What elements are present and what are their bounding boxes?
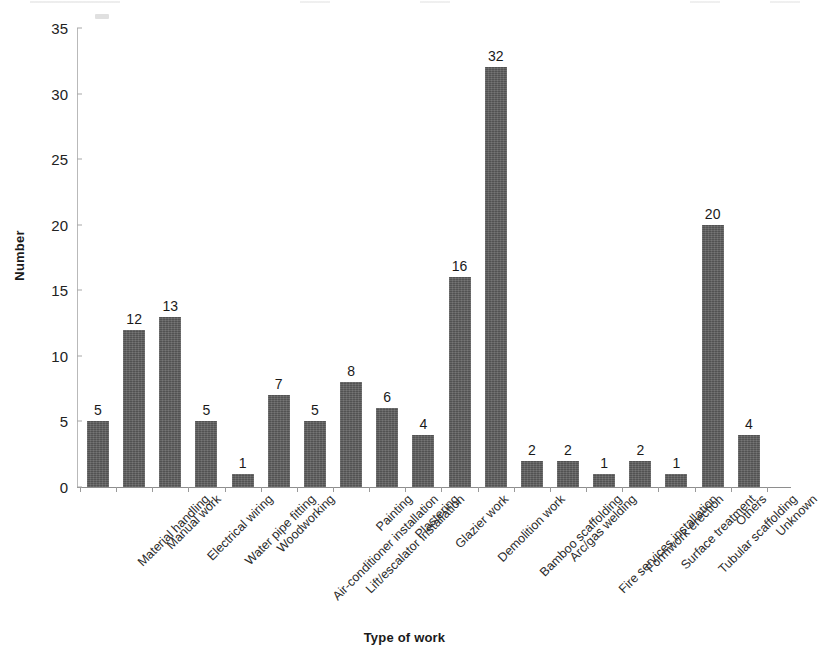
- y-axis-tick-mark: [77, 28, 82, 29]
- bar: 8: [340, 382, 362, 487]
- x-axis-tick-mark: [514, 487, 515, 492]
- x-axis-tick-mark: [731, 487, 732, 492]
- x-axis-tick-mark: [478, 487, 479, 492]
- x-axis-tick-mark: [297, 487, 298, 492]
- y-axis-tick-mark: [77, 159, 82, 160]
- bar: 1: [665, 474, 687, 487]
- y-axis-tick-mark: [77, 93, 82, 94]
- y-axis-tick-mark: [77, 421, 82, 422]
- bar: 7: [268, 395, 290, 487]
- x-axis-tick-mark: [586, 487, 587, 492]
- x-axis-title: Type of work: [0, 630, 809, 645]
- bar-value-label: 16: [452, 258, 468, 274]
- bar: 12: [123, 330, 145, 487]
- y-axis-tick-mark: [77, 355, 82, 356]
- x-axis-tick-mark: [261, 487, 262, 492]
- bar-value-label: 1: [600, 455, 608, 471]
- x-axis-tick-mark: [152, 487, 153, 492]
- bar: 5: [304, 421, 326, 487]
- bar: 4: [738, 435, 760, 487]
- x-axis-tick-mark: [550, 487, 551, 492]
- y-axis-tick-label: 35: [51, 20, 77, 37]
- bar-value-label: 2: [636, 442, 644, 458]
- bar: 1: [593, 474, 615, 487]
- bar-value-label: 6: [383, 389, 391, 405]
- bar-value-label: 12: [126, 311, 142, 327]
- x-axis-category-label: Air-conditioner installation: [330, 492, 441, 603]
- bar-value-label: 2: [528, 442, 536, 458]
- x-axis-tick-mark: [116, 487, 117, 492]
- x-axis-tick-mark: [695, 487, 696, 492]
- bar-value-label: 1: [239, 455, 247, 471]
- bar: 2: [521, 461, 543, 487]
- bar: 2: [629, 461, 651, 487]
- y-axis-tick-label: 30: [51, 85, 77, 102]
- x-axis-tick-mark: [225, 487, 226, 492]
- bar: 1: [232, 474, 254, 487]
- y-axis-tick-label: 25: [51, 151, 77, 168]
- bar: 4: [412, 435, 434, 487]
- x-axis-tick-mark: [188, 487, 189, 492]
- bar-value-label: 13: [163, 298, 179, 314]
- y-axis-tick-label: 5: [60, 413, 77, 430]
- bar-value-label: 5: [94, 402, 102, 418]
- bar-value-label: 7: [275, 376, 283, 392]
- x-axis-tick-mark: [441, 487, 442, 492]
- bar-value-label: 32: [488, 48, 504, 64]
- scan-bleed-artifact: [0, 0, 809, 12]
- x-axis-tick-mark: [767, 487, 768, 492]
- y-axis-tick-mark: [77, 290, 82, 291]
- bar: 5: [87, 421, 109, 487]
- bar: 2: [557, 461, 579, 487]
- plot-area: 05101520253035512135175864163222121204: [77, 28, 790, 487]
- bar: 5: [195, 421, 217, 487]
- scan-bleed-artifact-mark: [95, 14, 109, 19]
- x-axis-tick-mark: [333, 487, 334, 492]
- x-axis-tick-mark: [405, 487, 406, 492]
- bar-value-label: 8: [347, 363, 355, 379]
- y-axis-tick-mark: [77, 224, 82, 225]
- bar: 6: [376, 408, 398, 487]
- x-axis-tick-mark: [369, 487, 370, 492]
- bar: 13: [159, 317, 181, 487]
- x-axis-tick-mark: [622, 487, 623, 492]
- x-axis-tick-mark: [80, 487, 81, 492]
- bar: 20: [702, 225, 724, 487]
- bar-value-label: 5: [203, 402, 211, 418]
- y-axis-tick-label: 0: [60, 479, 77, 496]
- bar-value-label: 20: [705, 206, 721, 222]
- y-axis-tick-label: 15: [51, 282, 77, 299]
- bar: 32: [485, 67, 507, 487]
- x-axis-tick-mark: [658, 487, 659, 492]
- bar-value-label: 4: [745, 416, 753, 432]
- y-axis-tick-label: 20: [51, 216, 77, 233]
- x-axis-line: [77, 487, 791, 488]
- bar-value-label: 1: [673, 455, 681, 471]
- bar: 16: [449, 277, 471, 487]
- y-axis-title: Number: [12, 211, 27, 301]
- bar-value-label: 2: [564, 442, 572, 458]
- bar-value-label: 4: [419, 416, 427, 432]
- bar-value-label: 5: [311, 402, 319, 418]
- y-axis-tick-label: 10: [51, 347, 77, 364]
